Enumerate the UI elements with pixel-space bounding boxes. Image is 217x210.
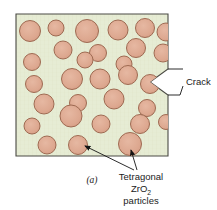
zro2-particle	[77, 52, 93, 68]
zro2-particle	[131, 115, 150, 134]
zro2-particle	[119, 66, 138, 85]
crack-leader-line	[168, 69, 183, 95]
zro2-particle	[154, 44, 172, 62]
zro2-particle	[127, 39, 146, 58]
zro2-particle	[136, 19, 155, 38]
zro2-particle	[48, 20, 64, 36]
zro2-particle	[90, 69, 110, 89]
particles-label-line1: Tetragonal	[119, 171, 163, 182]
zro2-particle	[119, 133, 142, 156]
zro2-particle	[62, 69, 83, 90]
zro2-particle	[108, 20, 128, 40]
zro2-particle	[76, 20, 99, 43]
figure-caption: (a)	[86, 175, 97, 186]
zro2-particle	[24, 118, 40, 134]
particles-label-line3: particles	[123, 195, 159, 206]
zro2-particle	[20, 21, 41, 42]
zro2-particle	[157, 23, 175, 41]
zro2-particle	[69, 136, 88, 155]
zro2-particle	[26, 76, 43, 93]
zro2-main: ZrO	[131, 183, 147, 194]
zro2-particle	[139, 100, 156, 117]
specimen-schematic: Crack Tetragonal ZrO2 particles (a)	[0, 0, 217, 210]
crack-label: Crack	[186, 76, 211, 87]
figure-container: Crack Tetragonal ZrO2 particles (a)	[0, 0, 217, 210]
crack-annotation: Crack	[168, 69, 211, 95]
zro2-particle	[38, 136, 56, 154]
zro2-particle	[104, 89, 124, 109]
zro2-particle	[24, 54, 41, 71]
zro2-particle	[60, 105, 82, 127]
zro2-particle	[159, 115, 174, 130]
zro2-particle	[54, 41, 72, 59]
zro2-particle	[34, 94, 54, 114]
zro2-particle	[92, 115, 110, 133]
